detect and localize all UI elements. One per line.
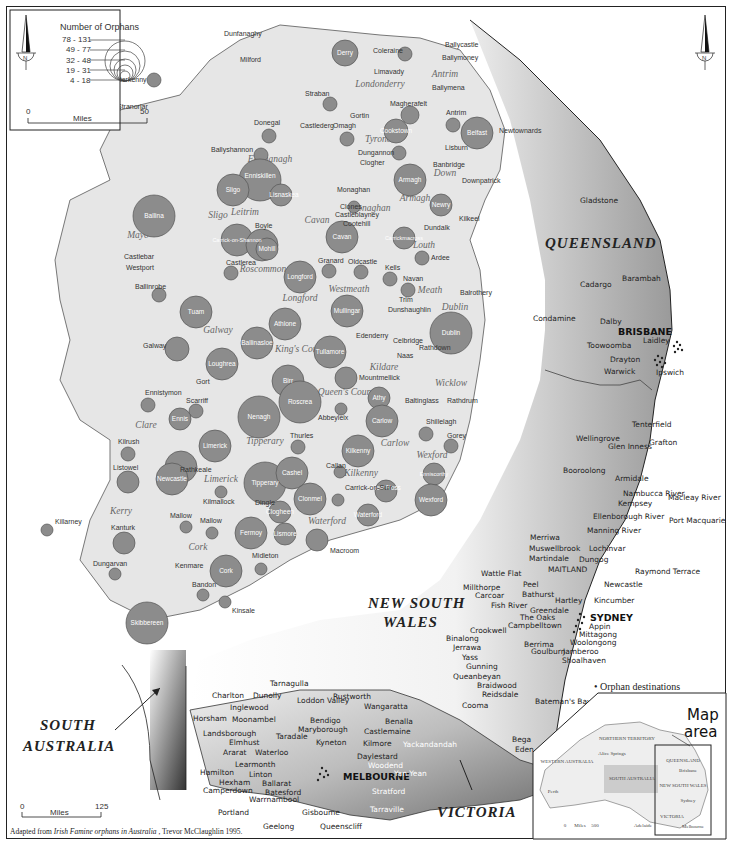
svg-text:Sydney: Sydney bbox=[681, 798, 697, 803]
county-cavan: Cavan bbox=[305, 215, 330, 225]
svg-text:Macroom: Macroom bbox=[330, 547, 359, 554]
state-nsw-line1: NEW SOUTH bbox=[367, 595, 466, 611]
svg-text:Edenderry: Edenderry bbox=[356, 332, 389, 340]
svg-text:Waterford: Waterford bbox=[354, 511, 383, 518]
svg-text:Rathkeale: Rathkeale bbox=[180, 466, 212, 473]
svg-text:Yackandandah: Yackandandah bbox=[402, 740, 457, 749]
svg-text:Ballycastle: Ballycastle bbox=[445, 41, 479, 49]
svg-text:Bathurst: Bathurst bbox=[522, 590, 554, 599]
svg-text:Moonambel: Moonambel bbox=[232, 715, 276, 724]
map-area-label: Map bbox=[687, 706, 719, 724]
source-caption: Adapted from Irish Famine orphans in Aus… bbox=[10, 827, 243, 836]
svg-text:Kilmallock: Kilmallock bbox=[203, 498, 235, 505]
svg-text:Kells: Kells bbox=[385, 264, 401, 271]
svg-text:Banbridge: Banbridge bbox=[433, 161, 465, 169]
svg-text:Booroolong: Booroolong bbox=[563, 466, 606, 475]
svg-text:Balrothery: Balrothery bbox=[460, 289, 492, 297]
australia-inset-map: NORTHERN TERRITORY WESTERN AUSTRALIA SOU… bbox=[533, 693, 726, 839]
svg-text:Yass: Yass bbox=[461, 653, 478, 662]
svg-text:Reidsdale: Reidsdale bbox=[482, 690, 519, 699]
svg-text:125: 125 bbox=[95, 802, 109, 811]
svg-text:Toowoomba: Toowoomba bbox=[586, 341, 631, 350]
legend-class-5: 4 - 18 bbox=[70, 76, 91, 85]
svg-text:Warrnambool: Warrnambool bbox=[249, 795, 299, 804]
legend-class-1: 78 - 131 bbox=[62, 35, 92, 44]
svg-text:Enniskillen: Enniskillen bbox=[244, 172, 275, 179]
australia-scale-bar: 0 Miles 125 bbox=[20, 802, 109, 817]
svg-text:Kilkeel: Kilkeel bbox=[459, 215, 480, 222]
svg-text:Kilrush: Kilrush bbox=[118, 438, 140, 445]
svg-text:Peel: Peel bbox=[523, 580, 539, 589]
svg-text:Enniscorthy: Enniscorthy bbox=[420, 471, 449, 477]
svg-text:50: 50 bbox=[140, 107, 149, 116]
svg-text:Port Macquarie: Port Macquarie bbox=[669, 516, 726, 525]
svg-text:QUEENSLAND: QUEENSLAND bbox=[666, 758, 700, 763]
svg-text:Woolongong: Woolongong bbox=[570, 638, 617, 647]
svg-text:Midleton: Midleton bbox=[252, 552, 279, 559]
county-louth: Louth bbox=[412, 240, 435, 250]
svg-text:Eden: Eden bbox=[515, 745, 534, 754]
svg-text:Lochinvar: Lochinvar bbox=[589, 544, 626, 553]
svg-text:Jerrawa: Jerrawa bbox=[452, 643, 481, 652]
svg-text:Barambah: Barambah bbox=[622, 274, 661, 283]
county-meath: Meath bbox=[417, 285, 443, 295]
svg-text:Tuam: Tuam bbox=[188, 308, 204, 315]
svg-text:Galway: Galway bbox=[143, 342, 167, 350]
svg-text:N: N bbox=[702, 55, 706, 61]
svg-text:Lismore: Lismore bbox=[273, 530, 297, 537]
svg-text:Miles: Miles bbox=[574, 823, 585, 828]
svg-text:Perth: Perth bbox=[548, 789, 559, 794]
svg-text:Learmonth: Learmonth bbox=[235, 760, 276, 769]
svg-text:Carrickmacross: Carrickmacross bbox=[385, 235, 423, 241]
svg-text:Tullamore: Tullamore bbox=[316, 348, 345, 355]
svg-text:Binalong: Binalong bbox=[446, 634, 479, 643]
svg-text:Castlemaine: Castlemaine bbox=[364, 727, 411, 736]
svg-text:Kempsey: Kempsey bbox=[618, 499, 653, 508]
svg-text:Lisnaskea: Lisnaskea bbox=[269, 191, 299, 198]
svg-text:Dundalk: Dundalk bbox=[424, 224, 450, 231]
svg-text:Ipswich: Ipswich bbox=[656, 368, 684, 377]
svg-text:Limavady: Limavady bbox=[374, 68, 404, 76]
svg-text:Sligo: Sligo bbox=[226, 186, 241, 194]
svg-text:Monaghan: Monaghan bbox=[337, 186, 370, 194]
county-kerry: Kerry bbox=[109, 506, 133, 516]
state-sa-line1: SOUTH bbox=[40, 717, 96, 733]
svg-text:Milford: Milford bbox=[240, 56, 261, 63]
svg-text:Cavan: Cavan bbox=[333, 233, 352, 240]
svg-text:Belfast: Belfast bbox=[467, 129, 487, 136]
county-waterford: Waterford bbox=[308, 516, 346, 526]
svg-text:Listowel: Listowel bbox=[113, 464, 139, 471]
svg-text:Shillelagh: Shillelagh bbox=[426, 418, 456, 426]
svg-text:VICTORIA: VICTORIA bbox=[660, 814, 684, 819]
svg-text:Muswellbrook: Muswellbrook bbox=[529, 544, 581, 553]
svg-text:Castlerea: Castlerea bbox=[226, 259, 256, 266]
svg-text:Fish River: Fish River bbox=[491, 601, 528, 610]
svg-text:Taradale: Taradale bbox=[275, 732, 308, 741]
svg-text:Kincumber: Kincumber bbox=[594, 596, 635, 605]
county-clare: Clare bbox=[135, 420, 156, 430]
svg-text:Mullingar: Mullingar bbox=[334, 307, 361, 315]
svg-text:Merriwa: Merriwa bbox=[530, 533, 560, 542]
svg-text:Ballinrobe: Ballinrobe bbox=[135, 283, 166, 290]
svg-text:Magherafelt: Magherafelt bbox=[390, 100, 427, 108]
svg-text:0: 0 bbox=[26, 107, 31, 116]
svg-text:Ennis: Ennis bbox=[172, 415, 189, 422]
svg-text:Inglewood: Inglewood bbox=[230, 703, 269, 712]
svg-text:Scarriff: Scarriff bbox=[186, 397, 208, 404]
svg-text:Gort: Gort bbox=[196, 378, 210, 385]
svg-text:Cashel: Cashel bbox=[282, 469, 303, 476]
circle-galway[interactable] bbox=[165, 337, 189, 361]
svg-text:Alice Springs: Alice Springs bbox=[598, 751, 625, 756]
svg-text:0: 0 bbox=[20, 802, 25, 811]
svg-text:Gisboume: Gisboume bbox=[302, 808, 340, 817]
svg-text:Kilmore: Kilmore bbox=[363, 739, 392, 748]
circle-letterkenny[interactable] bbox=[147, 73, 161, 87]
svg-text:Miles: Miles bbox=[73, 114, 92, 123]
svg-text:Drayton: Drayton bbox=[610, 355, 640, 364]
state-queensland: QUEENSLAND bbox=[545, 235, 657, 251]
svg-text:Elmhust: Elmhust bbox=[229, 738, 260, 747]
svg-text:Gladstone: Gladstone bbox=[580, 196, 618, 205]
svg-text:Boyle: Boyle bbox=[255, 222, 273, 230]
svg-text:Glen Inness: Glen Inness bbox=[608, 442, 652, 451]
svg-text:Goulburn: Goulburn bbox=[531, 647, 566, 656]
